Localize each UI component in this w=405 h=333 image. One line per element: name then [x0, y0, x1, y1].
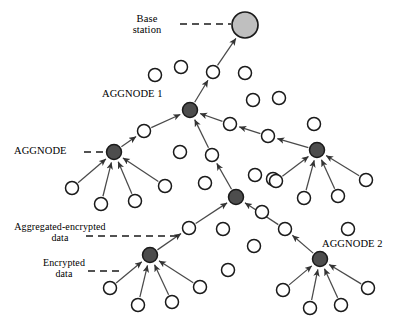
data-flow-arrow	[329, 265, 361, 284]
network-canvas	[0, 0, 405, 333]
data-flow-arrow	[324, 269, 337, 298]
label-aggnode-1: AGGNODE 1	[102, 88, 163, 99]
data-flow-arrow	[123, 158, 158, 182]
sensor-node	[270, 175, 283, 188]
data-flow-arrow	[195, 120, 209, 148]
idle-sensor-node	[308, 118, 321, 131]
label-aggnode: AGGNODE	[14, 145, 67, 156]
idle-sensor-node	[239, 67, 252, 80]
sensor-node	[335, 299, 348, 312]
data-flow-arrow	[78, 159, 106, 183]
idle-sensor-node	[247, 94, 260, 107]
network-diagram: Base station AGGNODE 1 AGGNODE AGGNODE 2…	[0, 0, 405, 333]
relay-node	[206, 149, 219, 162]
aggregator-node	[310, 143, 325, 158]
idle-sensor-node	[175, 61, 188, 74]
data-flow-arrow	[155, 265, 169, 295]
idle-sensor-node	[342, 223, 355, 236]
sensor-node	[332, 190, 345, 203]
sensor-node	[360, 174, 373, 187]
sensor-node	[166, 296, 179, 309]
relay-node	[207, 66, 220, 79]
aggregator-node	[313, 252, 328, 267]
data-flow-arrow	[121, 137, 136, 147]
idle-sensor-node	[199, 177, 212, 190]
relay-node	[262, 130, 275, 143]
base-station-node	[232, 12, 258, 38]
relay-node	[138, 125, 151, 138]
aggregator-node	[183, 103, 198, 118]
data-flow-arrow	[200, 114, 222, 122]
data-flow-arrow	[282, 156, 308, 176]
sensor-node	[159, 180, 172, 193]
idle-sensor-node	[149, 69, 162, 82]
relay-node	[279, 223, 292, 236]
idle-sensor-node	[174, 146, 187, 159]
relay-node	[183, 222, 196, 235]
sensor-node	[298, 192, 311, 205]
data-flow-arrow	[289, 266, 312, 285]
idle-sensor-node	[222, 264, 235, 277]
data-flow-arrow	[217, 163, 232, 189]
data-flow-arrow	[159, 261, 193, 283]
sensor-node	[362, 282, 375, 295]
aggregator-node	[229, 190, 244, 205]
data-flow-arrow	[312, 269, 318, 300]
idle-sensor-node	[256, 206, 269, 219]
sensor-node	[104, 282, 117, 295]
idle-sensor-node	[217, 223, 230, 236]
data-flow-arrow	[326, 156, 359, 176]
sensor-node	[66, 182, 79, 195]
sensor-node	[132, 299, 145, 312]
sensor-node	[304, 302, 317, 315]
data-flow-arrow	[277, 139, 308, 148]
data-flow-arrow	[306, 160, 314, 190]
label-aggregated-encrypted-data: Aggregated-encrypted data	[4, 222, 116, 243]
idle-sensor-node	[273, 92, 286, 105]
data-flow-arrow	[321, 160, 334, 189]
idle-sensor-node	[249, 169, 262, 182]
label-encrypted-data: Encrypted data	[24, 258, 104, 279]
relay-node	[224, 118, 237, 131]
aggregator-node	[107, 145, 122, 160]
label-aggnode-2: AGGNODE 2	[322, 238, 383, 249]
nodes-layer	[66, 12, 375, 315]
sensor-node	[194, 281, 207, 294]
sensor-node	[129, 195, 142, 208]
data-flow-arrow	[196, 203, 227, 224]
data-flow-arrow	[118, 162, 132, 194]
data-flow-arrow	[239, 127, 260, 134]
idle-sensor-node	[248, 240, 261, 253]
data-flow-arrow	[292, 235, 313, 253]
data-flow-arrow	[151, 114, 180, 127]
data-flow-arrow	[140, 265, 148, 297]
aggregator-node	[143, 248, 158, 263]
sensor-node	[95, 198, 108, 211]
data-flow-arrow	[103, 162, 111, 196]
data-flow-arrow	[116, 262, 142, 283]
label-base-station: Base station	[118, 13, 176, 35]
data-flow-arrow	[218, 38, 236, 65]
data-flow-arrow	[195, 80, 208, 102]
sensor-node	[277, 284, 290, 297]
